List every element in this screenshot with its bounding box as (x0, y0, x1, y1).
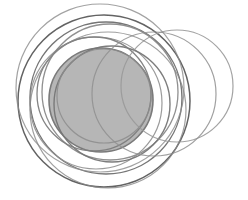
overlapping-circles-chart (0, 0, 248, 200)
figure-container (0, 0, 248, 200)
